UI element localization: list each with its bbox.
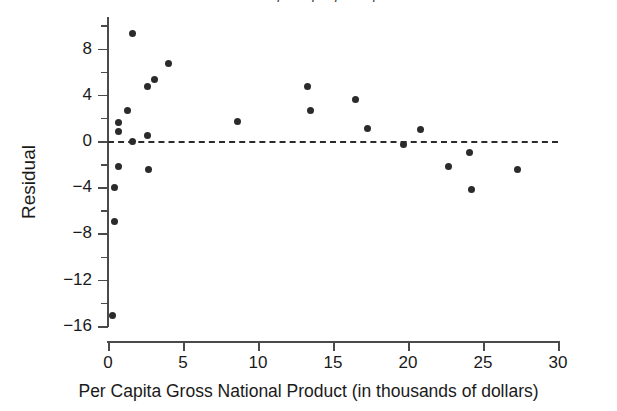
y-tick-label: −4 <box>36 178 92 195</box>
data-point <box>129 138 136 145</box>
data-point <box>165 60 172 67</box>
chart-title: Residual plot of ... per capita <box>0 0 617 2</box>
y-tick-label: 4 <box>36 86 92 103</box>
y-tick-label: −16 <box>36 317 92 334</box>
data-point <box>364 125 371 132</box>
data-point <box>304 83 311 90</box>
x-tick <box>333 341 335 351</box>
data-point <box>307 107 314 114</box>
data-point <box>145 166 152 173</box>
y-tick-minor <box>101 164 108 166</box>
y-tick-minor <box>101 210 108 212</box>
data-point <box>115 119 122 126</box>
x-tick-label: 0 <box>88 353 128 373</box>
y-tick-minor <box>101 303 108 305</box>
data-point <box>111 184 118 191</box>
x-tick <box>483 341 485 351</box>
y-tick-major <box>98 326 108 328</box>
x-axis-title: Per Capita Gross National Product (in th… <box>0 381 617 401</box>
y-tick-minor <box>101 257 108 259</box>
data-point <box>514 166 521 173</box>
y-tick-major <box>98 95 108 97</box>
data-point <box>144 132 151 139</box>
data-point <box>124 107 131 114</box>
y-tick-minor <box>101 72 108 74</box>
data-point <box>466 149 473 156</box>
x-tick <box>108 341 110 351</box>
y-tick-major <box>98 280 108 282</box>
y-tick-major <box>98 49 108 51</box>
y-tick-major <box>98 187 108 189</box>
x-tick <box>258 341 260 351</box>
x-tick-label: 10 <box>238 353 278 373</box>
data-point <box>129 30 136 37</box>
data-point <box>417 126 424 133</box>
data-point <box>144 83 151 90</box>
y-axis-title: Residual <box>19 92 39 272</box>
residual-scatter-figure: Residual plot of ... per capita 840−4−8−… <box>0 0 617 411</box>
y-tick-label: 8 <box>36 40 92 57</box>
x-tick-label: 15 <box>313 353 353 373</box>
x-tick <box>558 341 560 351</box>
data-point <box>234 118 241 125</box>
y-tick-label: −12 <box>36 271 92 288</box>
y-axis-tick-labels: 840−4−8−12−16 <box>36 0 92 411</box>
data-point <box>151 76 158 83</box>
x-tick-label: 25 <box>463 353 503 373</box>
data-point <box>109 312 116 319</box>
y-tick-label: 0 <box>36 132 92 149</box>
y-tick-major <box>98 141 108 143</box>
data-point <box>352 96 359 103</box>
plot-area <box>108 18 558 342</box>
data-point <box>445 163 452 170</box>
y-tick-major <box>98 233 108 235</box>
y-tick-minor <box>101 118 108 120</box>
x-tick-label: 30 <box>538 353 578 373</box>
x-tick <box>408 341 410 351</box>
y-tick-label: −8 <box>36 224 92 241</box>
data-point <box>115 128 122 135</box>
data-point <box>111 218 118 225</box>
data-point <box>468 186 475 193</box>
data-point <box>400 141 407 148</box>
x-tick-label: 5 <box>163 353 203 373</box>
data-point <box>115 163 122 170</box>
y-tick-minor <box>101 25 108 27</box>
x-tick <box>183 341 185 351</box>
x-tick-label: 20 <box>388 353 428 373</box>
